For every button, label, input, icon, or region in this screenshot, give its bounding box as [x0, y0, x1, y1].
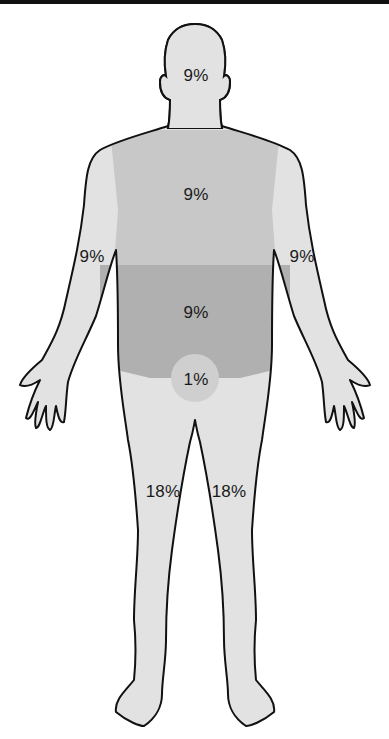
- chest-label: 9%: [184, 185, 209, 205]
- left-leg-label: 18%: [146, 482, 181, 502]
- abdomen-label: 9%: [184, 303, 209, 323]
- left-arm-label: 9%: [80, 247, 105, 267]
- right-arm-label: 9%: [290, 247, 315, 267]
- genital-label: 1%: [184, 370, 209, 390]
- right-leg-label: 18%: [212, 482, 247, 502]
- head-label: 9%: [184, 66, 209, 86]
